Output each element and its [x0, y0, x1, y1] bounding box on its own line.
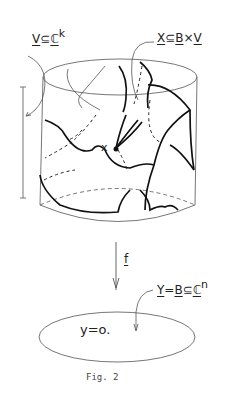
cylinder-bottom-back: [40, 189, 195, 206]
y-space-label: Y=B⊆ℂn: [157, 279, 208, 296]
v-space-label: V⊆ℂk: [32, 28, 65, 45]
surface-arcs: [67, 66, 105, 110]
figure-caption: Fig. 2: [86, 372, 119, 382]
cylinder-left-edge: [40, 77, 43, 205]
y-leader: [134, 290, 153, 331]
base-equation: y=o.: [80, 323, 110, 336]
map-label: f: [124, 253, 128, 265]
hidden-curves: [44, 66, 160, 180]
diagram-drawing: [0, 0, 239, 400]
singular-point: [114, 147, 119, 152]
height-indicator: [20, 87, 26, 198]
cylinder-top-ellipse: [43, 59, 197, 95]
x-leader: [132, 42, 154, 100]
map-arrow: [113, 242, 119, 290]
cylinder-right-edge: [195, 77, 197, 205]
fiber-curves: [40, 62, 194, 213]
cylinder-bottom-front: [40, 205, 195, 222]
x-space-label: X⊆B×V: [157, 32, 202, 44]
base-ellipse: [39, 312, 195, 362]
point-label: x: [101, 142, 108, 153]
figure-2: V⊆ℂk X⊆B×V x f Y=B⊆ℂn y=o. Fig. 2: [0, 0, 239, 400]
